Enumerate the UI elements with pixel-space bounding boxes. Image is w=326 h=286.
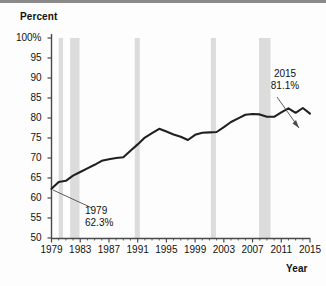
y-tick-label: 80 (10, 112, 42, 123)
annotation-2015-year: 2015 (274, 68, 296, 79)
annotation-2015-value: 81.1% (261, 80, 309, 92)
annotation-1979-year: 1979 (85, 205, 107, 216)
y-tick-label: 85 (10, 92, 42, 103)
y-tick-label: 55 (10, 212, 42, 223)
annotation-1979-value: 62.3% (85, 217, 113, 229)
recession-band (211, 38, 216, 238)
annotation-2015: 2015 81.1% (261, 68, 309, 92)
y-tick-label: 50 (10, 232, 42, 243)
y-tick-label: 65 (10, 172, 42, 183)
y-tick-label: 90 (10, 72, 42, 83)
recession-band (59, 38, 63, 238)
x-tick-label: 2015 (293, 244, 326, 255)
chart-figure: Percent Year 100%95908580757065605550 19… (0, 0, 326, 286)
y-tick-label: 60 (10, 192, 42, 203)
data-series-line (52, 108, 311, 189)
y-tick-label: 75 (10, 132, 42, 143)
y-tick-label: 70 (10, 152, 42, 163)
recession-band (70, 38, 79, 238)
recession-band (135, 38, 140, 238)
annotation-1979: 1979 62.3% (85, 205, 113, 229)
y-tick-label: 95 (10, 52, 42, 63)
y-tick-label: 100% (10, 32, 42, 43)
